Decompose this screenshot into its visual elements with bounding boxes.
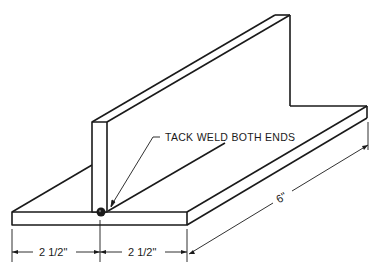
dimension-arrows (12, 145, 368, 254)
weld-dot-icon (97, 208, 106, 217)
tack-weld (97, 208, 106, 217)
tack-weld-label: TACK WELD BOTH ENDS (165, 131, 295, 143)
dim-right-label: 2 1/2" (128, 246, 156, 258)
base-plate (12, 106, 367, 225)
dim-left-label: 2 1/2" (39, 246, 67, 258)
dimension-lines (12, 122, 368, 262)
tack-weld-leader (111, 137, 160, 207)
vertical-plate (92, 15, 290, 212)
t-joint-drawing: TACK WELD BOTH ENDS 2 1/2" 2 1/2" 6" (0, 0, 380, 270)
dim-length-label: 6" (274, 190, 289, 205)
